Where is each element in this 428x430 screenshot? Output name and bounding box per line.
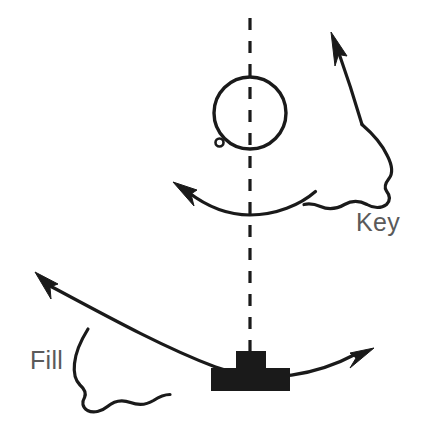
label-fill: Fill [30, 346, 63, 374]
upper-left-arrowhead-icon [173, 182, 197, 206]
key-blob-outline [304, 125, 392, 209]
solid-t-block [211, 351, 290, 391]
diagram-canvas: Key Fill [0, 0, 428, 430]
lower-right-arrowhead-icon [350, 348, 374, 368]
key-up-arrowhead-icon [331, 32, 347, 66]
lower-curve [48, 285, 358, 377]
lower-left-arrowhead-icon [35, 272, 58, 299]
circle-tail-loop-icon [216, 139, 224, 147]
upper-curve [188, 192, 316, 216]
key-stem-curve [338, 49, 363, 125]
diagram-svg: Key Fill [0, 0, 428, 430]
label-key: Key [356, 208, 400, 236]
